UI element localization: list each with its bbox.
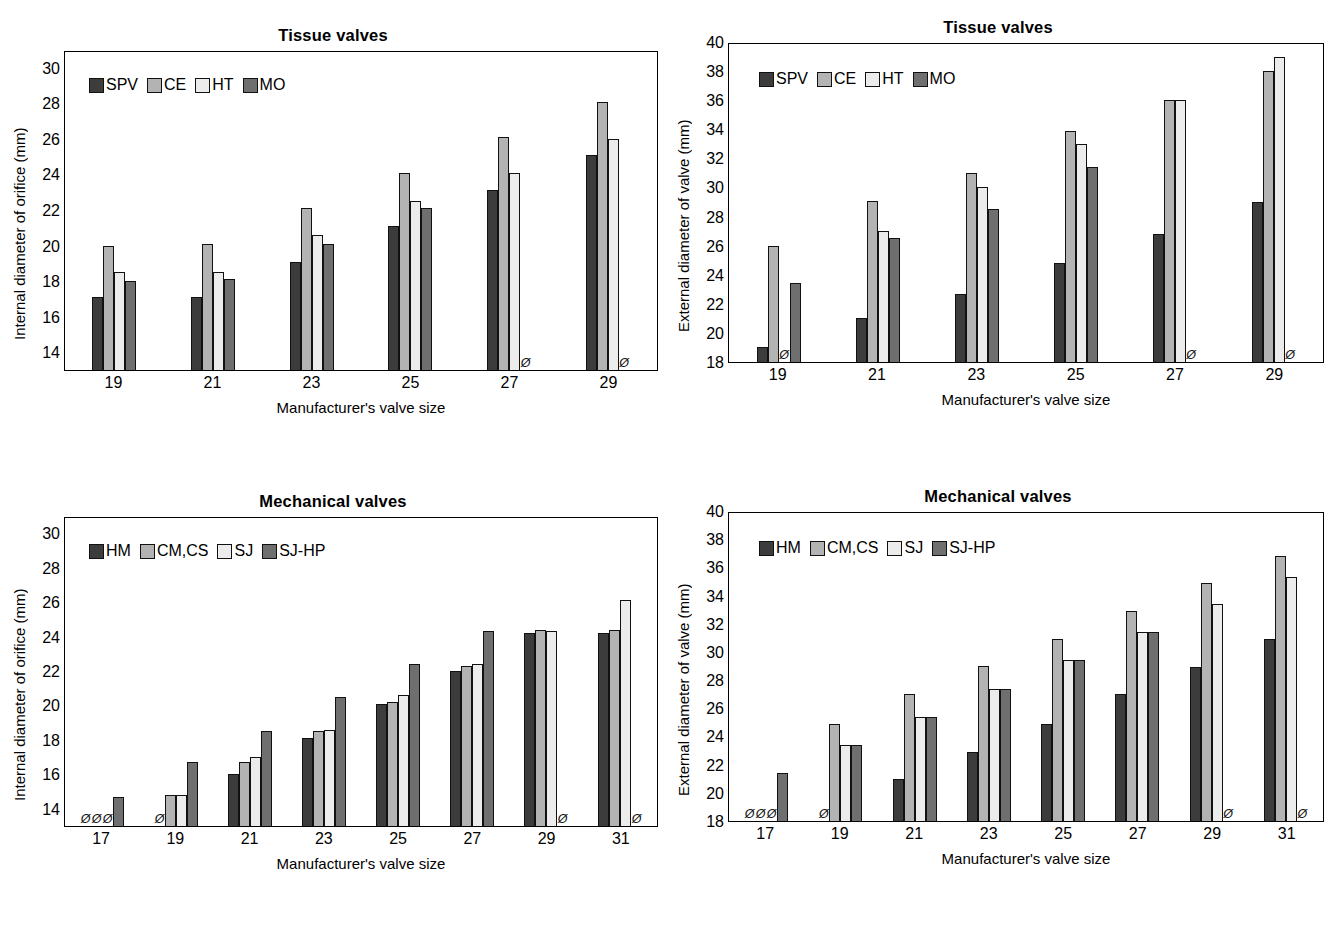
x-axis-label: Manufacturer's valve size: [728, 391, 1324, 408]
x-axis-tick-labels: 192123252729: [64, 374, 658, 392]
bar: [387, 702, 398, 826]
bar: [1252, 202, 1263, 362]
plot-area: SPVCEHTMO ØØ: [64, 51, 658, 371]
x-tick-label: 29: [1175, 825, 1250, 843]
bar: [609, 630, 620, 826]
missing-value-marker: Ø: [80, 518, 91, 826]
bar: [92, 297, 103, 370]
bar: [878, 231, 889, 362]
bar: [113, 797, 124, 826]
bar: [757, 347, 768, 362]
bar: [103, 246, 114, 370]
x-tick-label: 31: [1250, 825, 1325, 843]
bar: [398, 695, 409, 826]
bar-groups: ØØØ: [729, 44, 1323, 362]
bar: [409, 664, 420, 826]
bar: [620, 600, 631, 826]
bar: [546, 631, 557, 826]
bar: [125, 281, 136, 370]
bar: [926, 717, 937, 821]
bar: [250, 757, 261, 826]
page-title: Mechanical valves: [259, 492, 406, 511]
bar: [1087, 167, 1098, 362]
plot-area: SPVCEHTMO ØØØ: [728, 43, 1324, 363]
bar: [509, 173, 520, 370]
y-axis-tick-labels: 141618202224262830: [30, 51, 64, 371]
x-tick-label: 31: [584, 830, 658, 848]
bar: [955, 294, 966, 362]
bar-group: ØØØ: [729, 513, 803, 821]
bar-group: Ø: [1125, 44, 1224, 362]
x-axis-tick-labels: 192123252729: [728, 366, 1324, 384]
x-axis: 192123252729: [64, 374, 658, 392]
bar-group: Ø: [803, 513, 877, 821]
bar-group: Ø: [139, 518, 213, 826]
page-title: Mechanical valves: [924, 487, 1071, 506]
bar-group: Ø: [558, 52, 657, 370]
bar: [840, 745, 851, 821]
bar: [239, 762, 250, 826]
bar: [335, 697, 346, 826]
missing-value-marker: Ø: [154, 518, 165, 826]
bar: [867, 201, 878, 362]
x-tick-label: 27: [1101, 825, 1176, 843]
bar: [213, 272, 224, 370]
bar: [187, 762, 198, 826]
bar: [1115, 694, 1126, 821]
panel-bottom-left: Mechanical valves Internal diameter of o…: [8, 492, 658, 912]
x-tick-label: 17: [64, 830, 138, 848]
bar: [524, 633, 535, 826]
x-tick-label: 29: [559, 374, 658, 392]
x-tick-label: 27: [435, 830, 509, 848]
chart-row: Internal diameter of orifice (mm) 141618…: [8, 517, 658, 872]
bar-group: [1100, 513, 1174, 821]
plot-area: HMCM,CSSJSJ-HP ØØØØØØ: [728, 512, 1324, 822]
bar: [1063, 660, 1074, 821]
x-axis: 1719212325272931: [728, 825, 1324, 843]
bar: [978, 666, 989, 821]
bar: [829, 724, 840, 821]
x-tick-label: 19: [138, 830, 212, 848]
bar: [977, 187, 988, 362]
bar: [598, 633, 609, 826]
bar: [312, 235, 323, 370]
bar-group: Ø: [460, 52, 559, 370]
bar: [202, 244, 213, 370]
bar: [323, 244, 334, 370]
bar: [261, 731, 272, 826]
bar-group: [1026, 44, 1125, 362]
bar: [904, 694, 915, 821]
panel-title-row: Mechanical valves: [672, 487, 1324, 512]
bar: [498, 137, 509, 370]
bar-group: [435, 518, 509, 826]
page-title: Tissue valves: [278, 26, 388, 45]
bar: [1263, 71, 1274, 362]
bar: [893, 779, 904, 821]
page-title: Tissue valves: [943, 18, 1053, 37]
bar: [790, 283, 801, 362]
missing-value-marker: Ø: [1285, 44, 1296, 362]
x-tick-label: 23: [287, 830, 361, 848]
bar: [988, 209, 999, 362]
bar-group: [213, 518, 287, 826]
figure-caption-cropped: [108, 908, 1288, 928]
bar: [176, 795, 187, 826]
chart-row: External diameter of valve (mm) 18202224…: [672, 43, 1324, 408]
missing-value-marker: Ø: [744, 513, 755, 821]
panel-title-row: Tissue valves: [8, 26, 658, 51]
bar: [472, 664, 483, 826]
x-tick-label: 23: [262, 374, 361, 392]
panel-bottom-right: Mechanical valves External diameter of v…: [672, 487, 1324, 912]
bar: [410, 201, 421, 370]
panel-top-right: Tissue valves External diameter of valve…: [672, 18, 1324, 448]
bar: [376, 704, 387, 826]
bar: [966, 173, 977, 362]
bar-groups: ØØ: [65, 52, 657, 370]
y-axis-tick-labels: 182022242628303234363840: [694, 512, 728, 822]
missing-value-marker: Ø: [1223, 513, 1234, 821]
bar-group: Ø: [1249, 513, 1323, 821]
bar: [388, 226, 399, 370]
chart-row: External diameter of valve (mm) 18202224…: [672, 512, 1324, 867]
x-axis-label: Manufacturer's valve size: [728, 850, 1324, 867]
bar: [851, 745, 862, 821]
